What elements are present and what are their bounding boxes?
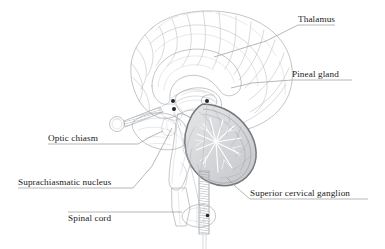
label-thalamus: Thalamus bbox=[298, 14, 335, 24]
brain-diagram-canvas: Thalamus Pineal gland Optic chiasm Supra… bbox=[0, 0, 385, 249]
label-optic-chiasm: Optic chiasm bbox=[48, 133, 98, 143]
eyeball bbox=[110, 117, 125, 132]
label-pineal-gland: Pineal gland bbox=[292, 69, 339, 79]
anatomical-figure: Thalamus Pineal gland Optic chiasm Supra… bbox=[0, 0, 385, 249]
label-spinal-cord: Spinal cord bbox=[68, 213, 112, 223]
corpus-callosum bbox=[152, 49, 241, 104]
spinal-cord-marker bbox=[206, 214, 210, 218]
annotation-labels: Thalamus Pineal gland Optic chiasm Supra… bbox=[18, 14, 350, 223]
thalamus-marker bbox=[171, 99, 175, 103]
label-superior-cervical-ganglion: Superior cervical ganglion bbox=[250, 188, 350, 198]
pineal-marker bbox=[205, 99, 209, 103]
label-suprachiasmatic-nucleus: Suprachiasmatic nucleus bbox=[18, 177, 112, 187]
cerebellum bbox=[185, 104, 256, 186]
suprachiasmatic-marker bbox=[172, 107, 176, 111]
